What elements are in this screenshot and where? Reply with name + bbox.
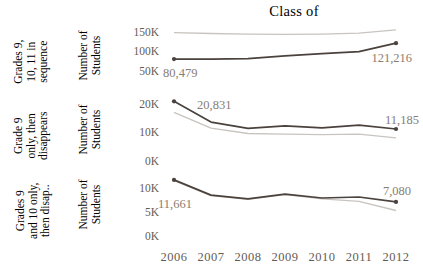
y-tick-label: 10K [139, 182, 160, 194]
row-label-line: Grades 9 [14, 174, 27, 248]
x-tick-label: 2009 [272, 250, 299, 264]
row-label-line: Grades 9, [12, 25, 25, 99]
dark-series-line [174, 180, 396, 202]
dark-series-line [174, 43, 396, 59]
row-label-line: Grade 9 [12, 99, 25, 173]
value-label: 121,216 [371, 51, 412, 65]
value-label: 11,185 [385, 113, 419, 127]
panel-3-row-label: Grades 9 and 10 only, then disap.. [14, 174, 52, 248]
panel-3-y-axis-title: Number of Students [77, 173, 102, 237]
y-axis-title-line: Students [89, 173, 102, 237]
panel-2-row-label: Grade 9 only, then disappears [12, 99, 50, 173]
y-tick-label: 0K [145, 230, 160, 242]
value-label: 7,080 [383, 184, 411, 198]
x-tick-label: 2010 [309, 250, 336, 264]
chart-title: Class of [165, 3, 423, 20]
x-tick-label: 2007 [198, 250, 225, 264]
panel-1-y-axis-title: Number of Students [77, 24, 102, 88]
small-multiples-chart: Class of Grades 9, 10, 11 in sequence Nu… [0, 0, 423, 276]
panel-2-plot: 20K10K0K20,83111,185 [123, 92, 423, 168]
y-tick-label: 50K [139, 65, 160, 77]
row-label-line: only, then [25, 99, 38, 173]
panel-2-y-axis-title: Number of Students [77, 98, 102, 162]
y-tick-label: 20K [139, 98, 160, 110]
panel-1-row-label: Grades 9, 10, 11 in sequence [12, 25, 50, 99]
row-label-line: sequence [37, 25, 50, 99]
endpoint-marker [394, 200, 398, 204]
endpoint-marker [394, 127, 398, 131]
x-axis-year-labels: 2006200720082009201020112012 [123, 246, 423, 270]
y-axis-title-line: Number of [77, 173, 90, 237]
value-label: 80,479 [163, 66, 197, 80]
y-tick-label: 10K [139, 126, 160, 138]
row-label-line: disappears [37, 99, 50, 173]
endpoint-marker [172, 57, 176, 61]
light-series-line [174, 30, 396, 35]
panel-3-plot: 10K5K0K11,6617,080 [123, 168, 423, 243]
light-series-line [174, 181, 396, 211]
endpoint-marker [394, 41, 398, 45]
y-axis-title-line: Number of [77, 24, 90, 88]
x-tick-label: 2011 [346, 250, 373, 264]
value-label: 11,661 [158, 197, 192, 211]
panel-1-plot: 150K100K50K80,479121,216 [123, 25, 423, 89]
endpoint-marker [172, 99, 176, 103]
y-tick-label: 150K [133, 26, 159, 38]
y-tick-label: 0K [145, 155, 160, 167]
row-label-line: and 10 only, [27, 174, 40, 248]
x-tick-label: 2012 [383, 250, 410, 264]
y-axis-title-line: Number of [77, 98, 90, 162]
row-label-line: 10, 11 in [25, 25, 38, 99]
y-tick-label: 100K [133, 45, 159, 57]
row-label-line: then disap.. [39, 174, 52, 248]
y-axis-title-line: Students [89, 24, 102, 88]
endpoint-marker [172, 178, 176, 182]
x-tick-label: 2008 [235, 250, 262, 264]
y-axis-title-line: Students [89, 98, 102, 162]
x-tick-label: 2006 [161, 250, 188, 264]
value-label: 20,831 [197, 98, 231, 112]
